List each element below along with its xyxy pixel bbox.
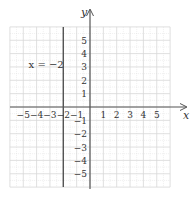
x-tick-label: −4	[30, 110, 44, 120]
y-tick-label: −1	[74, 116, 87, 126]
y-axis-label: y	[80, 6, 88, 19]
x-tick-label: 2	[114, 110, 120, 120]
x-tick-label: 4	[141, 110, 147, 120]
y-tick-label: −3	[74, 143, 88, 153]
y-tick-label: 1	[81, 89, 87, 99]
coordinate-plane: −5−4−3−2−11234554321−1−2−3−4−5 x y x = −…	[0, 0, 195, 199]
x-tick-label: 3	[127, 110, 133, 120]
equation-label: x = −2	[29, 59, 64, 70]
y-tick-label: −5	[74, 169, 88, 179]
y-tick-label: 5	[81, 36, 87, 46]
y-tick-label: 4	[81, 49, 87, 59]
y-tick-label: −4	[74, 156, 88, 166]
x-tick-label: −5	[17, 110, 31, 120]
x-tick-label: −2	[57, 110, 70, 120]
x-tick-label: 1	[100, 110, 106, 120]
y-tick-label: 3	[81, 62, 87, 72]
y-tick-label: −2	[74, 129, 87, 139]
x-tick-label: 5	[154, 110, 160, 120]
x-axis-label: x	[183, 109, 190, 122]
y-tick-label: 2	[81, 76, 87, 86]
x-tick-label: −3	[43, 110, 57, 120]
